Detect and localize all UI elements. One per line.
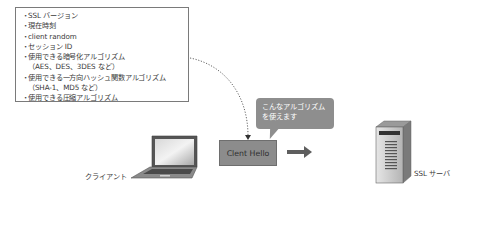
client-label: クライアント — [85, 171, 127, 181]
callout-line-1: こんなアルゴリズム — [262, 102, 334, 112]
laptop-icon — [131, 136, 197, 178]
client-hello-message: Clent Hello — [219, 140, 277, 166]
server-label: SSL サーバ — [414, 168, 450, 178]
message-label: Clent Hello — [227, 149, 270, 158]
right-arrow-icon — [287, 146, 312, 158]
algorithm-callout: こんなアルゴリズム を使えます — [256, 98, 334, 129]
callout-line-2: を使えます — [262, 112, 334, 122]
server-icon — [376, 121, 411, 183]
dotted-connector — [190, 58, 251, 140]
